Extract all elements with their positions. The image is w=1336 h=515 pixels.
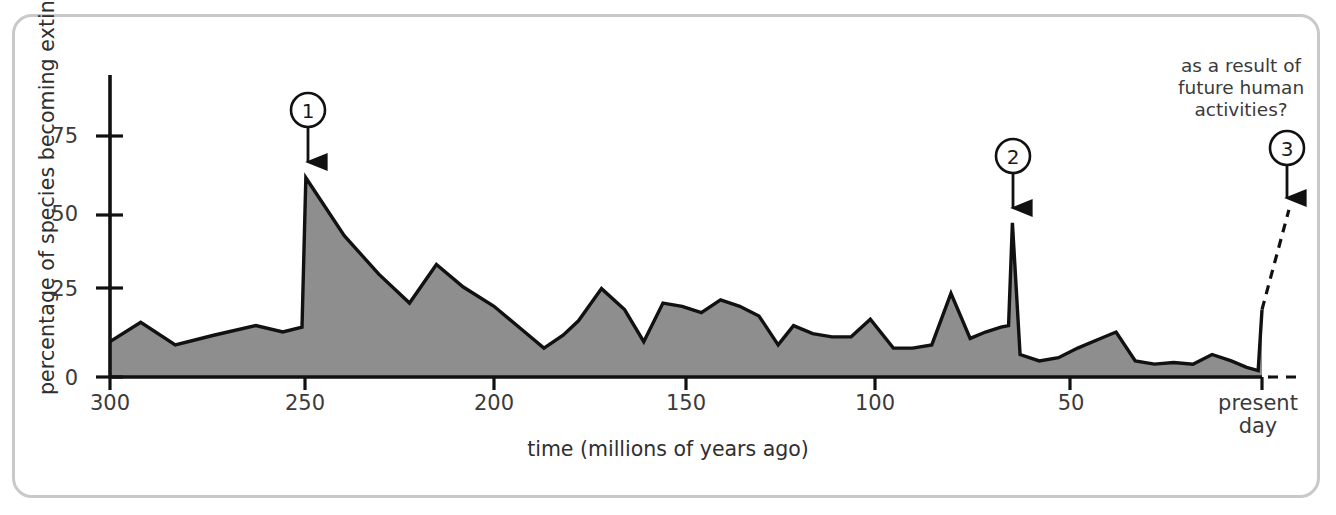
- annotation-marker-2[interactable]: 2: [996, 139, 1030, 208]
- series-area-fill: [110, 178, 1262, 377]
- figure-frame: percentage of species becoming extinct t…: [0, 0, 1336, 515]
- annotation-marker-1[interactable]: 1: [291, 93, 325, 162]
- annotation-marker-3-label: 3: [1281, 137, 1294, 161]
- annotation-marker-2-label: 2: [1007, 145, 1020, 169]
- projection-dashed-line: [1262, 210, 1289, 310]
- extinction-area-chart: 1 2 3: [0, 0, 1336, 515]
- annotation-marker-3[interactable]: 3: [1270, 131, 1304, 198]
- annotation-marker-1-label: 1: [302, 99, 315, 123]
